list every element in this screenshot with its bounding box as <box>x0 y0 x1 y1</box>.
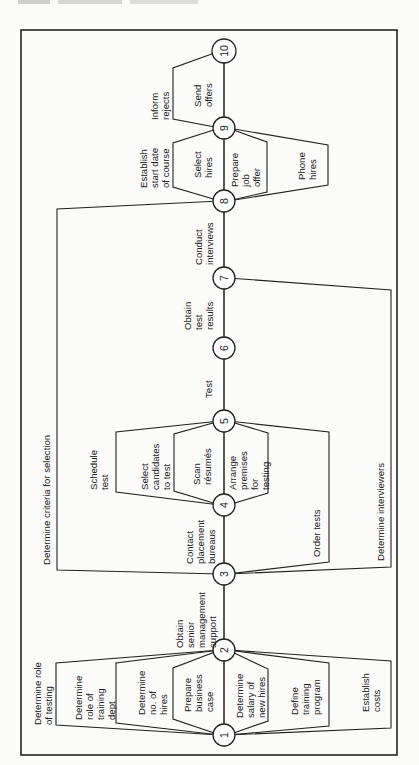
node-4: 4 <box>213 494 235 516</box>
label-senior-management: Obtain senior management support <box>174 592 218 648</box>
svg-text:of testing: of testing <box>43 686 54 725</box>
label-salary-new-hires: Determine salary of new hires <box>234 674 267 718</box>
svg-text:10: 10 <box>218 45 230 57</box>
label-send-offers: Send offers <box>192 83 214 107</box>
svg-text:to test: to test <box>161 464 172 490</box>
label-obtain-results: Obtain test results <box>182 302 215 330</box>
svg-text:rejects: rejects <box>160 92 171 120</box>
svg-text:Establish: Establish <box>360 673 371 712</box>
node-8: 8 <box>213 190 235 212</box>
label-order-tests: Order tests <box>311 509 322 557</box>
label-conduct-interviews: Conduct interviews <box>193 222 215 265</box>
label-scan-resumes: Scan résumés <box>191 448 213 485</box>
label-start-date: Establish start date of course <box>138 148 171 188</box>
node-1: 1 <box>213 724 235 746</box>
svg-text:hires: hires <box>307 159 318 180</box>
svg-text:Determine: Determine <box>136 671 147 715</box>
label-training-program: Define training program <box>289 679 322 715</box>
svg-text:for: for <box>249 478 260 490</box>
svg-text:candidates: candidates <box>150 443 161 490</box>
node-6: 6 <box>213 337 235 359</box>
svg-text:no. of: no. of <box>147 691 158 715</box>
svg-text:hires: hires <box>158 694 169 715</box>
svg-text:dept: dept <box>106 701 117 720</box>
svg-text:Select: Select <box>192 151 203 178</box>
svg-text:Conduct: Conduct <box>193 229 204 265</box>
node-5: 5 <box>213 410 235 432</box>
svg-text:Establish: Establish <box>138 149 149 188</box>
svg-text:Prepare: Prepare <box>182 678 193 712</box>
svg-text:offer: offer <box>251 167 262 187</box>
svg-text:7: 7 <box>218 275 230 281</box>
svg-text:Determine criteria for selecti: Determine criteria for selection <box>41 435 52 565</box>
svg-text:Test: Test <box>203 380 214 398</box>
label-business-case: Prepare business case <box>182 674 215 712</box>
label-inform-rejects: Inform rejects <box>149 92 171 120</box>
svg-text:Phone: Phone <box>296 152 307 180</box>
svg-text:role of: role of <box>84 693 95 720</box>
svg-text:3: 3 <box>218 571 230 577</box>
svg-text:2: 2 <box>218 647 230 653</box>
svg-text:Define: Define <box>289 687 300 715</box>
svg-text:5: 5 <box>218 418 230 424</box>
svg-text:management: management <box>196 592 207 648</box>
label-no-of-hires: Determine no. of hires <box>136 671 169 715</box>
svg-text:program: program <box>311 679 322 715</box>
svg-text:1: 1 <box>218 732 230 738</box>
node-10: 10 <box>212 39 236 63</box>
node-9: 9 <box>213 117 235 139</box>
svg-text:costs: costs <box>371 689 382 712</box>
svg-text:Determine: Determine <box>73 676 84 720</box>
svg-text:résumés: résumés <box>202 448 213 485</box>
network-diagram: 1 2 3 4 5 6 7 8 9 10 Determine role of t… <box>0 0 419 765</box>
svg-text:bureaus: bureaus <box>206 529 217 564</box>
svg-text:new hires: new hires <box>256 677 267 718</box>
svg-text:Obtain: Obtain <box>182 302 193 330</box>
svg-text:Determine role: Determine role <box>32 662 43 725</box>
edge-select-candidates <box>174 421 220 505</box>
svg-text:start date: start date <box>149 148 160 188</box>
svg-text:testing: testing <box>260 462 271 490</box>
label-select-hires: Select hires <box>192 151 214 178</box>
svg-text:Schedule: Schedule <box>88 450 99 490</box>
svg-text:hires: hires <box>203 157 214 178</box>
svg-text:training: training <box>95 689 106 720</box>
label-role-of-training-dept: Determine role of training dept <box>73 676 117 720</box>
label-criteria-selection: Determine criteria for selection <box>41 435 52 565</box>
svg-text:Prepare: Prepare <box>229 153 240 187</box>
svg-text:placement: placement <box>195 519 206 564</box>
label-phone-hires: Phone hires <box>296 152 318 180</box>
label-select-candidates: Select candidates to test <box>139 443 172 490</box>
svg-text:senior: senior <box>185 621 196 648</box>
svg-text:Obtain: Obtain <box>174 620 185 648</box>
label-role-of-testing: Determine role of testing <box>32 662 54 725</box>
svg-text:9: 9 <box>218 125 230 131</box>
svg-text:training: training <box>300 684 311 715</box>
svg-text:results: results <box>204 302 215 330</box>
svg-text:test: test <box>99 474 110 490</box>
svg-text:Contact: Contact <box>184 531 195 564</box>
svg-text:support: support <box>207 616 218 648</box>
svg-text:Order tests: Order tests <box>311 509 322 557</box>
svg-text:job: job <box>240 174 251 188</box>
svg-text:test: test <box>193 314 204 330</box>
svg-text:case: case <box>204 692 215 712</box>
svg-text:Select: Select <box>139 463 150 490</box>
svg-text:Arrange: Arrange <box>227 456 238 490</box>
label-interviewers: Determine interviewers <box>375 463 386 561</box>
node-3: 3 <box>213 563 235 585</box>
svg-text:Scan: Scan <box>191 463 202 485</box>
svg-text:Inform: Inform <box>149 93 160 120</box>
svg-text:offers: offers <box>203 83 214 107</box>
svg-text:8: 8 <box>218 198 230 204</box>
svg-text:Send: Send <box>192 85 203 107</box>
svg-text:Determine interviewers: Determine interviewers <box>375 463 386 561</box>
label-establish-costs: Establish costs <box>360 673 382 712</box>
label-schedule-test: Schedule test <box>88 450 110 490</box>
svg-text:interviews: interviews <box>204 222 215 265</box>
svg-text:6: 6 <box>218 345 230 351</box>
node-7: 7 <box>213 267 235 289</box>
svg-text:Determine: Determine <box>234 674 245 718</box>
label-job-offer: Prepare job offer <box>229 153 262 188</box>
label-contact-bureaus: Contact placement bureaus <box>184 519 217 564</box>
